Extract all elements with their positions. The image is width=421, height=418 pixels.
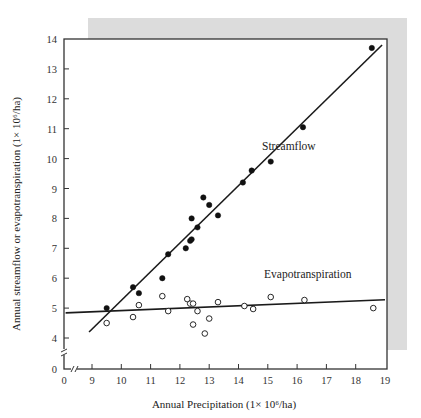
evapotranspiration-point [130,314,136,320]
evapotranspiration-point [160,293,166,299]
streamflow-point [104,305,109,310]
evapotranspiration-point [104,320,110,326]
x-tick-label: 15 [263,375,274,386]
y-tick-label: 4 [52,333,58,344]
y-tick-label: 10 [47,154,58,165]
streamflow-point [207,202,212,207]
streamflow-point [189,216,194,221]
evapotranspiration-point [206,316,212,322]
evapotranspiration-point [215,299,221,305]
y-tick-label: 9 [52,184,57,195]
y-tick-label: 0 [52,364,57,375]
streamflow-point [160,276,165,281]
evapotranspiration-point [370,305,376,311]
evapotranspiration-point [165,308,171,314]
x-tick-label: 12 [175,375,186,386]
streamflow-point [136,290,141,295]
streamflow-point [195,225,200,230]
streamflow-point [249,168,254,173]
x-tick-label: 0 [61,375,66,386]
y-tick-label: 12 [47,94,58,105]
streamflow-label: Streamflow [262,140,316,152]
x-tick-label: 10 [116,375,127,386]
y-tick-label: 13 [47,64,58,75]
x-tick-label: 19 [380,375,391,386]
y-tick-label: 6 [52,273,57,284]
streamflow-point [268,159,273,164]
x-tick-label: 18 [350,375,361,386]
x-tick-label: 13 [204,375,215,386]
evapotranspiration-point [302,297,308,303]
streamflow-point [369,45,374,50]
y-tick-label: 5 [52,303,57,314]
evapotranspiration-point [268,294,274,300]
x-tick-label: 9 [89,375,94,386]
evapotranspiration-point [195,308,201,314]
evapotranspiration-point [136,302,142,308]
x-tick-label: 14 [233,375,244,386]
evapotranspiration-point [190,322,196,328]
x-axis-title: Annual Precipitation (1× 10⁶/ha) [152,398,296,411]
y-tick-label: 14 [47,34,58,45]
streamflow-point [130,284,135,289]
streamflow-point [240,180,245,185]
y-tick-label: 8 [52,213,57,224]
evapotranspiration-label: Evapotranspiration [264,268,352,281]
streamflow-point [201,195,206,200]
chart: 0910111213141516171819 04567891011121314… [0,0,421,418]
x-tick-label: 11 [146,375,156,386]
y-axis-title: Annual streamflow or evapotranspiration … [10,97,23,331]
evapotranspiration-point [242,303,248,309]
x-tick-label: 17 [321,375,332,386]
evapotranspiration-point [250,306,256,312]
streamflow-point [300,125,305,130]
streamflow-point [189,237,194,242]
streamflow-point [215,213,220,218]
evapotranspiration-point [202,331,208,337]
y-tick-label: 7 [52,243,57,254]
x-tick-label: 16 [292,375,303,386]
evapotranspiration-point [190,301,196,307]
streamflow-point [183,246,188,251]
y-tick-label: 11 [47,124,57,135]
streamflow-point [165,252,170,257]
